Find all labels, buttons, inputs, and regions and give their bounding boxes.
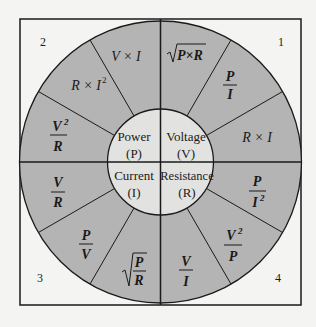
center-label-current: Current xyxy=(114,168,154,183)
quadrant-number-4: 4 xyxy=(275,271,281,285)
quadrant-number-3: 3 xyxy=(37,271,43,285)
svg-text:R: R xyxy=(52,139,62,154)
svg-text:R: R xyxy=(52,195,62,210)
svg-text:P: P xyxy=(226,69,235,84)
center-symbol-resistance: (R) xyxy=(178,185,195,200)
svg-text:P: P xyxy=(229,249,238,264)
center-label-resistance: Resistance xyxy=(160,169,214,183)
ohms-law-wheel: 1 2 3 4 Power (P) Voltage (V) Current (I… xyxy=(0,0,316,327)
svg-text:2: 2 xyxy=(259,193,265,203)
svg-text:P×R: P×R xyxy=(177,48,203,63)
svg-text:P: P xyxy=(135,255,144,270)
svg-text:I: I xyxy=(226,87,233,102)
svg-text:P: P xyxy=(82,228,91,243)
svg-text:2: 2 xyxy=(63,117,69,127)
quadrant-number-1: 1 xyxy=(278,35,284,49)
center-symbol-power: (P) xyxy=(126,146,142,161)
quadrant-number-2: 2 xyxy=(40,35,46,49)
formula-v-times-i: V × I xyxy=(111,49,142,64)
center-symbol-current: (I) xyxy=(128,185,141,200)
svg-text:R: R xyxy=(133,273,143,288)
svg-text:2: 2 xyxy=(237,226,243,236)
svg-text:I: I xyxy=(251,195,258,210)
formula-r-times-i: R × I xyxy=(241,130,273,145)
svg-text:2: 2 xyxy=(102,75,107,85)
center-label-power: Power xyxy=(117,129,151,144)
svg-text:I: I xyxy=(182,274,189,289)
svg-text:R × I: R × I xyxy=(70,78,102,93)
svg-text:P: P xyxy=(253,174,262,189)
center-symbol-voltage: (V) xyxy=(177,146,195,161)
center-label-voltage: Voltage xyxy=(166,129,206,144)
